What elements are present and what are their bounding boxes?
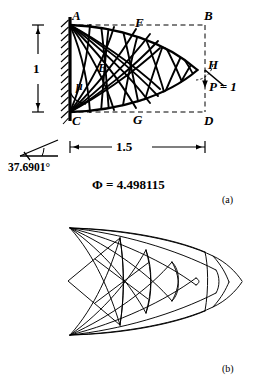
point-label-H: H: [208, 57, 218, 73]
characteristic-crossings: [101, 25, 197, 112]
angle-value-label: 37.6901°: [8, 161, 50, 173]
point-label-C: C: [72, 113, 81, 129]
horizontal-dimension-line: [70, 141, 205, 153]
vertical-dimension-value: 1: [33, 61, 40, 77]
horizontal-dimension-value: 1.5: [116, 139, 132, 155]
panel-b: [68, 228, 242, 335]
point-label-A: A: [72, 8, 81, 24]
point-label-D: D: [204, 113, 213, 129]
point-label-F: F: [135, 15, 144, 31]
angle-wedge-icon: [20, 140, 58, 160]
hodograph-fan-upper: [70, 228, 216, 325]
mu-angle-label: μ: [76, 79, 83, 94]
hodograph-fan-lower: [70, 238, 216, 335]
panel-b-tag: (b): [222, 363, 234, 374]
panel-a-tag: (a): [222, 194, 233, 205]
rigid-wall: [61, 17, 70, 124]
load-label-P: P = 1: [209, 79, 237, 95]
hodograph-outer-boundary: [70, 228, 242, 335]
point-label-E: E: [98, 60, 107, 76]
point-label-G: G: [133, 112, 142, 128]
phi-value-label: Φ = 4.498115: [92, 177, 165, 193]
point-label-B: B: [204, 8, 213, 24]
